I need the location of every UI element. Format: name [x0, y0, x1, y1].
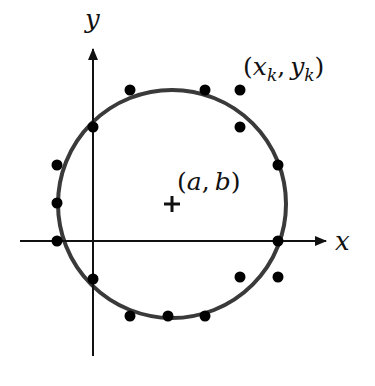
center-marker-icon [164, 196, 180, 212]
data-point [52, 198, 63, 209]
data-point [200, 85, 211, 96]
data-point [235, 122, 246, 133]
data-point [163, 311, 174, 322]
center-label: (a,b) [177, 167, 240, 196]
data-point [125, 85, 136, 96]
data-point [235, 272, 246, 283]
point-label: (xk,yk) [243, 52, 324, 85]
data-point [52, 160, 63, 171]
x-axis-label: x [335, 226, 350, 256]
data-point [273, 272, 284, 283]
data-point [273, 160, 284, 171]
circle-fit-diagram: x y (a,b) (xk,yk) [0, 0, 375, 386]
data-point [52, 236, 63, 247]
data-point [88, 122, 99, 133]
data-point [125, 311, 136, 322]
data-point [273, 236, 284, 247]
data-point [235, 85, 246, 96]
data-point [88, 274, 99, 285]
y-axis-label: y [84, 4, 100, 34]
data-point [200, 311, 211, 322]
